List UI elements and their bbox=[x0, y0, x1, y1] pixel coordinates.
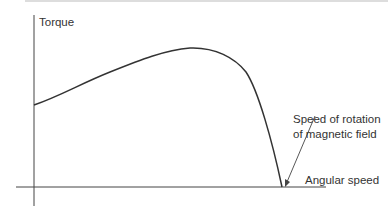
annotation-line1: Speed of rotation bbox=[293, 112, 381, 126]
torque-curve bbox=[34, 48, 282, 187]
annotation-line2: of magnetic field bbox=[293, 127, 377, 141]
y-axis-label: Torque bbox=[39, 15, 74, 29]
x-axis-label: Angular speed bbox=[305, 173, 379, 187]
